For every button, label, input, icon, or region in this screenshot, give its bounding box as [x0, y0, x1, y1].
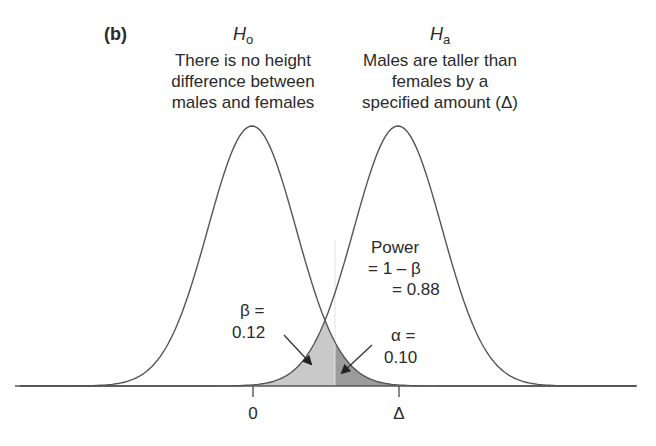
- alpha-value: 0.10: [384, 347, 417, 369]
- beta-label: β =: [232, 300, 265, 322]
- alt-hypothesis-line: Males are taller than: [340, 50, 540, 71]
- null-hypothesis-line: There is no height: [158, 50, 328, 71]
- power-value: = 0.88: [370, 279, 440, 300]
- null-hypothesis-line: males and females: [158, 92, 328, 113]
- alt-hypothesis-line: females by a: [340, 71, 540, 92]
- distribution-diagram: [0, 0, 656, 446]
- alpha-annotation: α = 0.10: [384, 325, 417, 369]
- alt-hypothesis-line: specified amount (Δ): [340, 92, 540, 113]
- null-hypothesis-block: Ho There is no height difference between…: [158, 24, 328, 113]
- alpha-label: α =: [384, 325, 417, 347]
- null-hypothesis-symbol: Ho: [158, 24, 328, 50]
- tick-label-delta: Δ: [389, 403, 409, 424]
- tick-label-zero: 0: [243, 403, 263, 424]
- null-hypothesis-line: difference between: [158, 71, 328, 92]
- power-formula: = 1 – β: [368, 258, 440, 279]
- alt-hypothesis-symbol: Ha: [340, 24, 540, 50]
- power-annotation: Power = 1 – β = 0.88: [370, 237, 440, 300]
- power-label: Power: [370, 237, 440, 258]
- beta-annotation: β = 0.12: [232, 300, 265, 344]
- beta-value: 0.12: [232, 322, 265, 344]
- panel-label: (b): [104, 24, 127, 45]
- alt-hypothesis-block: Ha Males are taller than females by a sp…: [340, 24, 540, 113]
- beta-arrow: [284, 335, 311, 364]
